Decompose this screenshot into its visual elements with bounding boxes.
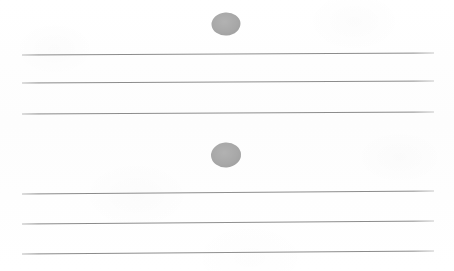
staff-line-4 (22, 191, 434, 194)
note-head-2 (210, 141, 242, 168)
note-heads-group (210, 12, 242, 169)
staff-line-6 (22, 251, 434, 254)
staff-line-2 (22, 81, 434, 83)
staff-line-1 (22, 53, 434, 55)
figure-canvas (0, 0, 454, 271)
note-head-1 (211, 12, 242, 37)
staff-line-3 (22, 112, 434, 114)
staff-figure (0, 0, 454, 271)
staff-line-5 (22, 221, 434, 224)
